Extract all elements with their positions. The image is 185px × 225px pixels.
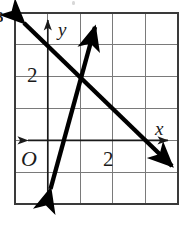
x-axis-label: x xyxy=(154,118,164,139)
scan-artifact-speck xyxy=(72,1,75,5)
y-axis-label: y xyxy=(56,19,67,40)
origin-label: O xyxy=(21,146,37,171)
graph-svg: y x 2 2 O xyxy=(0,0,185,225)
y-tick-label-2: 2 xyxy=(27,63,38,87)
clipped-question-numeral: 3 xyxy=(0,10,3,25)
x-tick-label-2: 2 xyxy=(103,147,114,171)
coordinate-grid-figure: y x 2 2 O xyxy=(0,0,185,225)
